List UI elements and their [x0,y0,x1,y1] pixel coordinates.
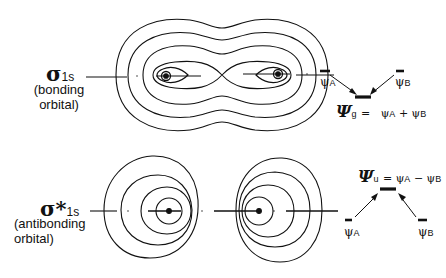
arrow-a-to-u [355,196,376,217]
psi-a2-label: ψA [344,226,359,238]
antibonding-description: (antibonding orbital) [14,216,98,246]
antibonding-mo-equation: Ψu = ψA − ψB [358,168,441,185]
bonding-contour-4 [153,61,291,88]
ab-right-contour-2 [239,172,310,247]
mo-diagram: σ1s (bonding orbital) ψA ψB Ψg = ψA + ψB… [0,0,446,278]
bonding-contour-map [86,19,334,130]
ab-left-contour-1 [104,156,198,258]
bonding-description: (bonding orbital) [27,82,91,112]
antibonding-energy-diagram [345,189,427,220]
psi-b2-label: ψB [418,226,433,238]
psi-b-label: ψB [395,76,410,88]
bonding-mo-equation: Ψg = ψA + ψB [336,103,426,120]
psi-a-label: ψA [320,76,335,88]
bonding-orbital-label: σ1s [46,63,74,84]
antibonding-contour-map [90,156,338,262]
